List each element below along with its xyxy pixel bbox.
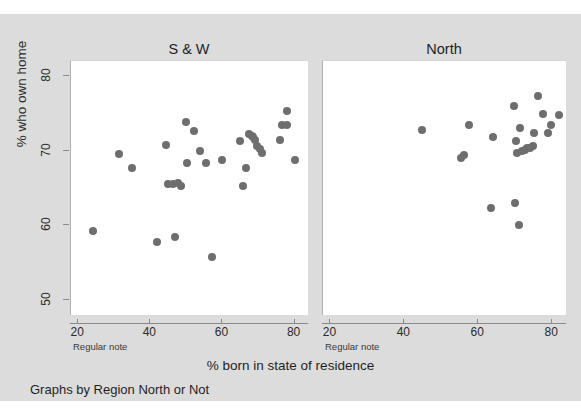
x-tick-mark [221,319,222,324]
x-tick-label-80: 80 [534,325,568,339]
data-point [510,102,518,110]
figure-canvas: % who own home 50607080 S & W20406080Reg… [0,14,581,401]
data-point [183,159,191,167]
data-point [418,126,426,134]
data-point [547,121,555,129]
data-point [512,137,520,145]
y-tick-label-80: 80 [39,60,53,90]
x-axis-line [322,323,566,324]
data-point [291,156,299,164]
data-point [516,124,524,132]
x-tick-label-60: 60 [204,325,238,339]
panel-title-north: North [322,38,566,60]
chart-caption: Graphs by Region North or Not [30,382,209,397]
panel-note-sw: Regular note [73,341,127,352]
y-tick-mark [63,150,69,151]
data-point [242,164,250,172]
y-axis-title-label: % who own home [14,0,29,194]
x-tick-mark [477,319,478,324]
data-point [171,233,179,241]
x-tick-label-60: 60 [460,325,494,339]
data-point [128,164,136,172]
x-tick-label-20: 20 [312,325,346,339]
x-axis-line [70,323,308,324]
data-point [529,142,537,150]
panel-note-north: Regular note [325,341,379,352]
y-tick-mark [63,75,69,76]
data-point [539,110,547,118]
data-point [283,121,291,129]
data-point [177,182,185,190]
scatter-plot-area-north [322,60,566,315]
y-axis-title: % who own home [14,0,34,94]
data-point [544,129,552,137]
y-tick-mark [63,224,69,225]
data-point [555,111,563,119]
data-point [190,127,198,135]
scatter-plot-area-sw [70,60,308,315]
data-point [115,150,123,158]
y-tick-label-60: 60 [39,209,53,239]
data-point [236,137,244,145]
data-point [153,238,161,246]
x-tick-label-40: 40 [132,325,166,339]
x-tick-label-40: 40 [386,325,420,339]
x-axis-title: % born in state of residence [0,358,581,373]
data-point [162,141,170,149]
y-tick-mark [63,299,69,300]
data-point [218,156,226,164]
data-point [239,182,247,190]
data-point [89,227,97,235]
data-point [515,221,523,229]
data-point [534,92,542,100]
data-point [202,159,210,167]
data-point [276,136,284,144]
x-tick-label-80: 80 [277,325,311,339]
panel-title-sw: S & W [70,38,308,60]
x-tick-mark [149,319,150,324]
x-tick-mark [403,319,404,324]
data-point [258,149,266,157]
x-tick-label-20: 20 [60,325,94,339]
data-point [489,133,497,141]
data-point [465,121,473,129]
data-point [208,253,216,261]
data-point [460,151,468,159]
data-point [487,204,495,212]
data-point [511,199,519,207]
x-tick-mark [77,319,78,324]
y-tick-label-50: 50 [39,284,53,314]
x-tick-mark [294,319,295,324]
y-tick-label-70: 70 [39,135,53,165]
data-point [530,129,538,137]
data-point [196,147,204,155]
x-tick-mark [329,319,330,324]
data-point [283,107,291,115]
data-point [182,118,190,126]
x-tick-mark [551,319,552,324]
